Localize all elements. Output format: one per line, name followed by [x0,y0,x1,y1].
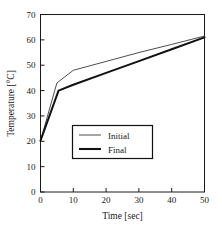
y-tick-label: 50 [27,60,37,70]
x-tick-label: 0 [38,195,43,205]
x-tick-label: 20 [102,195,112,205]
y-tick-label: 30 [27,111,37,121]
x-axis-title: Time [sec] [102,211,143,221]
legend-label-initial: Initial [108,131,130,141]
plot-frame [41,15,205,193]
x-tick-label: 10 [69,195,79,205]
y-tick-label: 70 [27,10,37,20]
x-tick-label: 30 [134,195,144,205]
x-tick-label: 50 [200,195,210,205]
chart-legend: Initial Final [73,126,153,159]
y-tick-label: 20 [27,136,37,146]
y-axis-title: Temperature [°C] [6,70,16,137]
x-tick-label: 40 [167,195,177,205]
legend-label-final: Final [108,145,127,155]
y-tick-label: 10 [27,162,37,172]
y-tick-label: 0 [31,187,36,197]
y-tick-label: 40 [27,86,37,96]
chart-figure: 010203040506070 01020304050 Time [sec] T… [0,0,222,227]
y-tick-label: 60 [27,35,37,45]
line-chart: 010203040506070 01020304050 Time [sec] T… [0,0,222,227]
